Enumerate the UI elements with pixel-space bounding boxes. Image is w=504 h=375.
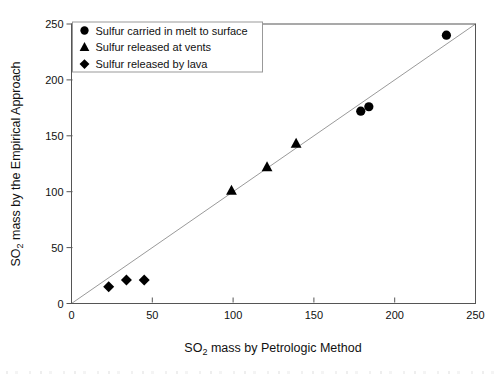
so2-scatter-chart: 050100150200250050100150200250Sulfur car… (0, 0, 504, 375)
x-axis-title: SO2 mass by Petrologic Method (184, 341, 361, 357)
y-tick-label: 200 (45, 74, 63, 86)
legend-marker-circle (80, 26, 88, 34)
legend-item: Sulfur released by lava (96, 58, 209, 70)
legend-label: Sulfur released at vents (96, 41, 212, 53)
data-point-circle (364, 102, 373, 111)
y-tick-label: 250 (45, 18, 63, 30)
y-axis-title-rest: mass by the Empirical Approach (9, 61, 23, 243)
x-axis-title-main: SO (184, 341, 202, 355)
data-point-triangle (262, 161, 273, 171)
legend-label: Sulfur released by lava (96, 58, 209, 70)
legend-item: Sulfur released at vents (96, 41, 212, 53)
y-tick-label: 100 (45, 186, 63, 198)
x-tick-label: 50 (146, 309, 158, 321)
cropped-caption-remnant (6, 371, 500, 374)
y-axis-title: SO2 mass by the Empirical Approach (9, 61, 25, 266)
legend-item: Sulfur carried in melt to surface (96, 25, 248, 37)
data-point-triangle (291, 138, 302, 148)
data-point-circle (356, 107, 365, 116)
data-point-circle (442, 31, 451, 40)
x-tick-label: 0 (68, 309, 74, 321)
x-tick-label: 250 (466, 309, 484, 321)
y-tick-label: 0 (57, 298, 63, 310)
y-axis-title-main: SO (9, 248, 23, 266)
x-tick-label: 150 (305, 309, 323, 321)
scatter-plot-figure: 050100150200250050100150200250Sulfur car… (0, 0, 504, 375)
legend-label: Sulfur carried in melt to surface (96, 25, 248, 37)
data-point-diamond (103, 281, 114, 292)
chart-generated-layer: 050100150200250050100150200250Sulfur car… (45, 18, 485, 321)
y-tick-label: 150 (45, 130, 63, 142)
legend: Sulfur carried in melt to surfaceSulfur … (73, 22, 263, 72)
data-point-diamond (121, 275, 132, 286)
x-tick-label: 100 (224, 309, 242, 321)
y-tick-label: 50 (51, 242, 63, 254)
x-axis-title-rest: mass by Petrologic Method (207, 341, 361, 355)
x-tick-label: 200 (386, 309, 404, 321)
data-point-diamond (139, 275, 150, 286)
